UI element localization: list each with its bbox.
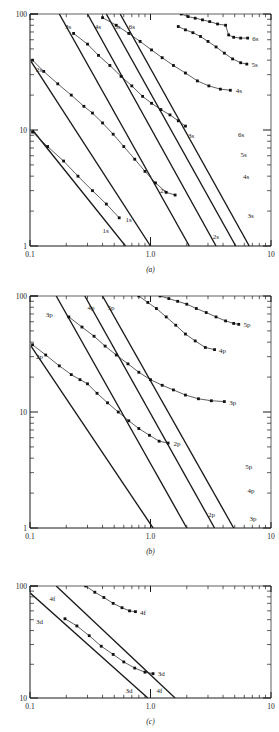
data-point <box>75 625 78 628</box>
data-point <box>130 85 133 88</box>
inline-label-2s: 2s <box>160 187 167 195</box>
data-point <box>104 345 107 348</box>
data-point <box>239 61 242 64</box>
data-point <box>64 617 67 620</box>
data-point <box>137 371 140 374</box>
data-point <box>207 40 210 43</box>
data-point <box>219 88 222 91</box>
data-point <box>82 105 85 108</box>
data-point <box>227 34 230 37</box>
x-tick-label: 0.1 <box>25 702 35 711</box>
data-point <box>42 70 45 73</box>
data-point <box>205 311 208 314</box>
data-point <box>180 13 183 16</box>
data-point <box>133 158 136 161</box>
data-point <box>101 122 104 125</box>
x-tick-label: 0.1 <box>25 532 35 541</box>
data-point <box>154 181 157 184</box>
panel-caption: (c) <box>146 717 155 726</box>
data-point <box>199 35 202 38</box>
reference-line-2p <box>31 346 153 528</box>
data-point <box>161 56 164 59</box>
data-point <box>79 378 82 381</box>
y-tick-label: 10 <box>20 408 28 417</box>
inline-label-5p: 5p <box>108 304 116 312</box>
inline-label-2s: 2s <box>36 66 43 74</box>
data-point <box>194 340 197 343</box>
data-point <box>161 384 164 387</box>
panel-c-plot: 0.11.010101004f3d3d4f4f3d(c) <box>0 564 279 732</box>
data-point <box>141 95 144 98</box>
data-point <box>207 85 210 88</box>
inline-label-3p: 3p <box>250 515 258 523</box>
inline-label-1s: 1s <box>126 216 133 224</box>
data-point <box>105 203 108 206</box>
panel-a: 0.11.0101101003s4s5s6s2s6s5s4s3s2s1s6s5s… <box>0 0 279 282</box>
panel-a-plot: 0.11.0101101003s4s5s6s2s6s5s4s3s2s1s6s5s… <box>0 0 279 282</box>
inline-label-6s: 6s <box>252 35 258 43</box>
data-point <box>144 671 147 674</box>
reference-line-6s <box>120 14 249 246</box>
data-point <box>194 17 197 20</box>
reference-line-4p <box>85 296 215 528</box>
data-point <box>31 59 34 62</box>
data-point <box>31 343 34 346</box>
data-point <box>144 170 147 173</box>
data-point <box>86 43 89 46</box>
data-series <box>64 585 155 675</box>
panel-b-plot: 0.11.0101101003p4p5p2p5p4p3p2p5p4p3p2p(b… <box>0 282 279 564</box>
reference-line-5s <box>106 14 235 246</box>
data-point <box>150 49 153 52</box>
reference-line-2s <box>31 61 150 246</box>
data-point <box>158 440 161 443</box>
inline-label-5s: 5s <box>114 23 121 31</box>
data-point <box>31 131 34 134</box>
inline-label-4s: 4s <box>95 23 102 31</box>
data-point <box>167 297 170 300</box>
data-point <box>70 373 73 376</box>
data-point <box>44 354 47 357</box>
data-point <box>184 125 187 128</box>
data-point <box>213 348 216 351</box>
inline-label-6s: 6s <box>238 131 245 139</box>
reference-lines <box>30 586 175 698</box>
data-point <box>184 28 187 31</box>
data-point <box>174 194 177 197</box>
data-point <box>115 354 118 357</box>
data-point <box>127 419 130 422</box>
data-point <box>127 362 130 365</box>
inline-label-1s: 1s <box>103 227 110 235</box>
data-point <box>81 326 84 329</box>
x-tick-label: 1.0 <box>146 532 156 541</box>
data-point <box>192 31 195 34</box>
data-point <box>148 434 151 437</box>
x-tick-label: 10 <box>267 702 275 711</box>
data-point <box>239 37 242 40</box>
data-point <box>184 72 187 75</box>
data-point <box>102 596 105 599</box>
series-line-4s <box>103 18 231 91</box>
inline-label-6s: 6s <box>129 23 136 31</box>
inline-label-3s: 3s <box>65 23 72 31</box>
data-point <box>160 108 163 111</box>
inline-label-4p: 4p <box>248 487 256 495</box>
inline-label-4p: 4p <box>88 304 96 312</box>
data-point <box>208 20 211 23</box>
data-point <box>122 661 125 664</box>
data-point <box>137 427 140 430</box>
data-point <box>215 46 218 49</box>
data-point <box>229 89 232 92</box>
data-point <box>120 75 123 78</box>
inline-label-5s: 5s <box>252 61 259 69</box>
data-point <box>231 58 234 61</box>
inline-label-4s: 4s <box>236 87 243 95</box>
inline-label-3s: 3s <box>188 132 195 140</box>
inline-label-4s: 4s <box>243 173 250 181</box>
panel-b: 0.11.0101101003p4p5p2p5p4p3p2p5p4p3p2p(b… <box>0 282 279 564</box>
inline-label-2p: 2p <box>208 511 216 519</box>
data-point <box>97 54 100 57</box>
data-point <box>224 320 227 323</box>
reference-line-3s <box>59 14 189 246</box>
data-point <box>152 672 155 675</box>
data-point <box>246 37 249 40</box>
